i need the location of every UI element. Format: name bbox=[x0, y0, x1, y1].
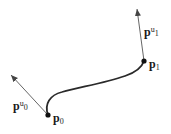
tangent-arrow-pu1 bbox=[137, 9, 144, 61]
label-p1: p1 bbox=[149, 57, 160, 72]
curve bbox=[47, 61, 144, 115]
label-p0: p0 bbox=[53, 111, 64, 126]
label-pu1: pu1 bbox=[144, 25, 159, 39]
point-p1 bbox=[141, 58, 146, 63]
label-pu0: pu0 bbox=[13, 99, 28, 113]
hermite-curve-diagram: p0 p1 pu0 pu1 bbox=[0, 0, 171, 134]
point-p0 bbox=[45, 112, 50, 117]
